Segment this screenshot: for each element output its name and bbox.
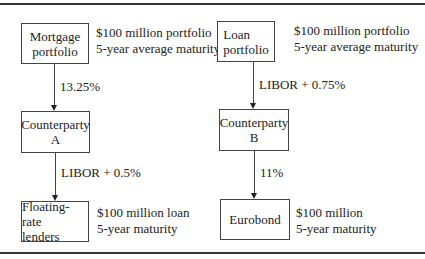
arrow-label: LIBOR + 0.5% — [61, 165, 141, 181]
eurobond-box: Eurobond — [220, 199, 290, 240]
top-rule — [0, 3, 425, 5]
loan-portfolio-box: Loanportfolio — [217, 21, 275, 62]
arrow-line — [54, 64, 55, 109]
floating-rate-lenders-box: Floating-ratelenders — [21, 201, 89, 242]
arrow-line — [253, 62, 254, 107]
counterparty-b-box: CounterpartyB — [219, 109, 289, 151]
mortgage-portfolio-note: $100 million portfolio5-year average mat… — [96, 25, 220, 57]
mortgage-portfolio-box: Mortgageportfolio — [21, 23, 89, 64]
arrow-label: 11% — [260, 165, 283, 181]
arrow-label: LIBOR + 0.75% — [259, 77, 345, 93]
counterparty-a-box: CounterpartyA — [21, 111, 90, 153]
bottom-rule — [0, 252, 425, 254]
eurobond-note: $100 million5-year maturity — [296, 205, 377, 237]
arrow-line — [55, 153, 56, 199]
floating-rate-note: $100 million loan5-year maturity — [97, 205, 189, 237]
box-line: portfolio — [32, 44, 78, 59]
box-line: Mortgage — [30, 29, 81, 44]
arrow-line — [254, 151, 255, 197]
loan-portfolio-note: $100 million portfolio5-year average mat… — [294, 23, 418, 55]
arrow-label: 13.25% — [60, 79, 100, 95]
